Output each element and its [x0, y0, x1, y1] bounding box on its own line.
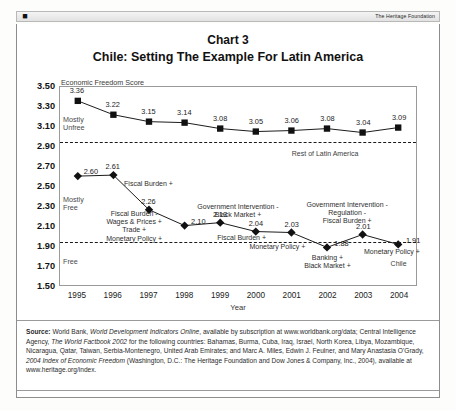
source-label: Source: — [26, 328, 51, 335]
data-point-value: 3.14 — [177, 108, 191, 117]
source-text-1: World Bank, — [51, 328, 90, 335]
x-tick-label: 1995 — [68, 291, 86, 300]
x-tick-label: 1999 — [211, 291, 229, 300]
chart-page: ■ The Heritage Foundation Chart 3 Chile:… — [0, 0, 456, 410]
data-point-marker — [358, 230, 366, 238]
zone-label: Mostly Free — [63, 196, 84, 213]
data-point-marker — [395, 124, 401, 130]
data-point-value: 3.08 — [320, 114, 334, 123]
series-name-label: Rest of Latin America — [292, 150, 359, 157]
data-point-marker — [180, 221, 188, 229]
data-point-value: 1.88 — [334, 239, 348, 248]
data-point-marker — [288, 127, 294, 133]
x-tick-label: 2002 — [318, 291, 336, 300]
data-point-value: 2.60 — [84, 167, 98, 176]
annotation-label: Fiscal Burden + — [124, 180, 173, 188]
data-point-marker — [216, 218, 224, 226]
data-point-value: 3.15 — [141, 107, 155, 116]
annotation-label: Fiscal Burden + — [217, 234, 266, 242]
data-point-value: 1.91 — [406, 236, 420, 245]
data-point-marker — [253, 128, 259, 134]
series-name-label: Chile — [391, 260, 407, 267]
data-point-marker — [324, 125, 330, 131]
data-point-value: 3.09 — [392, 113, 406, 122]
reference-line — [60, 142, 416, 143]
source-italic-2: The World Factbook 2002 — [51, 338, 127, 345]
data-point-marker — [287, 228, 295, 236]
source-rule — [17, 390, 439, 391]
x-tick-label: 2004 — [390, 291, 408, 300]
zone-label: Mostly Unfree — [63, 116, 85, 133]
data-point-marker — [74, 172, 82, 180]
data-point-value: 3.06 — [284, 116, 298, 125]
data-point-marker — [217, 125, 223, 131]
data-point-value: 3.36 — [70, 86, 84, 95]
data-point-value: 3.08 — [213, 114, 227, 123]
annotation-label: Monetary Policy + — [249, 243, 305, 251]
source-italic-1: World Development Indicators Online — [90, 328, 199, 335]
data-point-marker — [110, 112, 116, 118]
data-point-marker — [75, 98, 81, 104]
data-point-value: 2.26 — [141, 197, 155, 206]
data-point-value: 2.03 — [284, 220, 298, 229]
data-point-value: 2.61 — [105, 162, 119, 171]
source-italic-3: 2004 Index of Economic Freedom — [26, 357, 125, 364]
data-point-marker — [359, 129, 365, 135]
data-point-value: 3.05 — [249, 117, 263, 126]
x-tick-label: 1998 — [175, 291, 193, 300]
x-tick-label: 1997 — [139, 291, 157, 300]
data-point-marker — [146, 118, 152, 124]
series-canvas — [60, 87, 416, 285]
data-point-value: 3.22 — [105, 100, 119, 109]
x-axis-title: Year — [59, 303, 417, 312]
annotation-label: Government Intervention - Black Market + — [197, 203, 278, 219]
annotation-label: Fiscal Burden - Wages & Prices + Trade +… — [106, 210, 162, 243]
data-point-value: 2.04 — [249, 219, 263, 228]
x-tick-label: 2003 — [354, 291, 372, 300]
data-point-value: 3.04 — [356, 118, 370, 127]
zone-label: Free — [63, 258, 78, 266]
data-point-marker — [323, 243, 331, 251]
x-tick-label: 2000 — [247, 291, 265, 300]
x-tick-label: 2001 — [283, 291, 301, 300]
annotation-label: Government Intervention - Regulation - F… — [307, 201, 388, 226]
annotation-label: Banking + Black Market + — [304, 254, 351, 270]
series-line — [78, 101, 398, 133]
x-tick-label: 1996 — [104, 291, 122, 300]
data-point-marker — [181, 119, 187, 125]
annotation-label: Monetary Policy + — [364, 248, 420, 256]
source-note: Source: World Bank, World Development In… — [26, 327, 430, 375]
